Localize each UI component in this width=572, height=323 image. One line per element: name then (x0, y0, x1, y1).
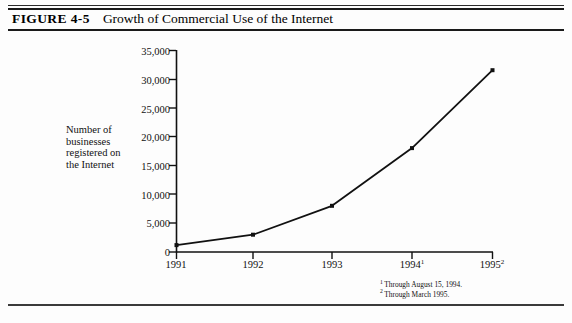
top-thin-rule (8, 5, 564, 6)
data-point-1991 (175, 243, 179, 247)
y-axis-ticks (169, 51, 176, 253)
footnote-1: 1Through August 15, 1994. (380, 280, 462, 290)
top-thick-rule (8, 8, 564, 10)
bottom-rule (8, 304, 564, 306)
figure-title-bar: FIGURE 4-5 Growth of Commercial Use of t… (12, 11, 333, 28)
x-axis-ticks (177, 252, 493, 259)
footnote-block: 1Through August 15, 1994. 2Through March… (380, 280, 462, 299)
figure-title: Growth of Commercial Use of the Internet (103, 11, 333, 27)
chart-plot-area (0, 31, 572, 304)
data-point-1993 (330, 204, 334, 208)
data-line (177, 70, 493, 245)
data-point-1995 (491, 68, 495, 72)
data-point-1994 (410, 146, 414, 150)
figure-page: FIGURE 4-5 Growth of Commercial Use of t… (0, 0, 572, 323)
figure-number: FIGURE 4-5 (12, 11, 90, 27)
data-markers (175, 68, 495, 247)
data-point-1992 (251, 233, 255, 237)
footnote-2: 2Through March 1995. (380, 290, 462, 300)
